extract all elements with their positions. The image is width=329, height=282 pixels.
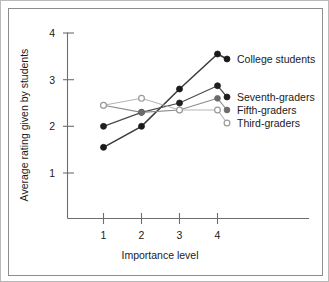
- data-point: [139, 95, 145, 101]
- legend-marker-icon: [224, 56, 230, 62]
- data-point: [177, 107, 183, 113]
- data-point: [215, 95, 221, 101]
- x-axis: 1 2 3 4 Importance level: [68, 213, 310, 261]
- y-axis-title: Average rating given by students: [18, 49, 30, 202]
- legend-label: Seventh-graders: [237, 91, 315, 103]
- legend-item[interactable]: Seventh-graders: [224, 91, 315, 103]
- data-point: [215, 51, 221, 57]
- legend-item[interactable]: Third-graders: [224, 117, 300, 129]
- data-point: [139, 123, 145, 129]
- legend-label: College students: [237, 53, 315, 65]
- data-point: [177, 100, 183, 106]
- series-seventh-graders: [101, 83, 228, 130]
- data-point: [177, 86, 183, 92]
- x-tick-label-4: 4: [215, 229, 221, 241]
- legend-item[interactable]: College students: [224, 53, 315, 65]
- x-axis-title: Importance level: [121, 249, 198, 261]
- data-point: [139, 109, 145, 115]
- figure-outer-border: 4 3 2 1 Average rating given by students…: [0, 0, 329, 282]
- legend-marker-icon: [224, 94, 230, 100]
- series-third-graders: [101, 95, 227, 123]
- y-tick-label-2: 2: [49, 120, 55, 132]
- legend-label: Fifth-graders: [237, 104, 297, 116]
- line-chart: 4 3 2 1 Average rating given by students…: [9, 9, 324, 277]
- data-point: [101, 102, 107, 108]
- legend-marker-icon: [224, 107, 230, 113]
- x-tick-label-2: 2: [139, 229, 145, 241]
- data-point: [101, 123, 107, 129]
- series-college-students: [101, 51, 228, 150]
- series-layer: [101, 51, 228, 150]
- legend-item[interactable]: Fifth-graders: [224, 104, 296, 116]
- x-tick-label-1: 1: [101, 229, 107, 241]
- data-point: [215, 83, 221, 89]
- series-line: [104, 54, 218, 147]
- y-axis: 4 3 2 1 Average rating given by students: [18, 27, 74, 219]
- x-tick-label-3: 3: [177, 229, 183, 241]
- y-tick-label-3: 3: [49, 74, 55, 86]
- series-line: [104, 86, 218, 127]
- data-point: [215, 107, 221, 113]
- data-point: [101, 144, 107, 150]
- legend-label: Third-graders: [237, 117, 300, 129]
- y-tick-label-4: 4: [49, 27, 55, 39]
- legend-marker-icon: [224, 120, 230, 126]
- chart-legend: College studentsSeventh-gradersFifth-gra…: [224, 53, 315, 129]
- figure-inner-border: 4 3 2 1 Average rating given by students…: [8, 8, 323, 276]
- y-tick-label-1: 1: [49, 167, 55, 179]
